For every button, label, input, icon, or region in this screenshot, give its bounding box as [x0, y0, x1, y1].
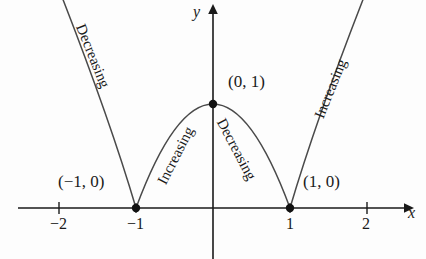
- graph-figure: y x −2 −1 1 2 (−1, 0) (0, 1) (1, 0) Decr…: [0, 0, 426, 259]
- point-marker-zero-one: [209, 100, 217, 108]
- x-tick-label-2: 2: [362, 216, 370, 232]
- point-label-one-zero: (1, 0): [303, 173, 340, 190]
- y-axis-arrowhead: [208, 4, 218, 14]
- point-label-zero-one: (0, 1): [228, 73, 265, 90]
- point-marker-one-zero: [286, 204, 294, 212]
- y-axis-label: y: [193, 4, 200, 20]
- x-axis-label: x: [408, 205, 415, 221]
- x-tick-label--1: −1: [127, 216, 144, 232]
- point-marker-minus-one-zero: [132, 204, 140, 212]
- point-label-minus-one-zero: (−1, 0): [58, 173, 104, 190]
- x-tick-label--2: −2: [50, 216, 67, 232]
- x-tick-label-1: 1: [286, 216, 294, 232]
